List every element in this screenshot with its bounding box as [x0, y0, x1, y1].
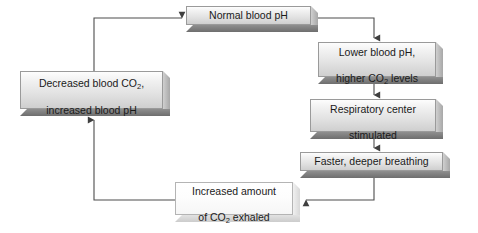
- node-bevel-right: [436, 99, 443, 132]
- node-label-decreased-blood-co2: Decreased blood CO2, increased blood pH: [20, 71, 163, 109]
- node-normal-blood-ph[interactable]: Normal blood pH: [186, 6, 318, 32]
- connector-breathing-to-exhaled: [306, 178, 374, 200]
- node-label-lower-blood-ph: Lower blood pH, higher CO2 levels: [318, 42, 436, 77]
- line-1: Lower blood pH,: [339, 46, 415, 58]
- flowchart-canvas: Normal blood pH Lower blood pH, higher C…: [0, 0, 478, 233]
- node-bevel-right: [293, 182, 300, 215]
- connector-exhaled-to-decreased: [94, 120, 175, 200]
- line-1-pre: Decreased blood CO: [39, 77, 137, 89]
- node-label-normal-blood-ph: Normal blood pH: [186, 6, 311, 25]
- line-1: Respiratory center: [330, 103, 416, 115]
- node-bevel-bottom: [186, 25, 318, 32]
- node-faster-deeper-breathing[interactable]: Faster, deeper breathing: [300, 152, 450, 178]
- subscript-2: 2: [384, 77, 388, 86]
- node-bevel-bottom: [300, 171, 450, 178]
- node-bevel-right: [311, 6, 318, 25]
- node-decreased-blood-co2[interactable]: Decreased blood CO2, increased blood pH: [20, 71, 170, 116]
- line-2-pre: higher CO: [336, 72, 384, 84]
- line-2-post: exhaled: [230, 211, 270, 223]
- line-1-post: ,: [141, 77, 144, 89]
- subscript-2: 2: [226, 216, 230, 225]
- line-2: increased blood pH: [46, 104, 136, 116]
- node-lower-blood-ph[interactable]: Lower blood pH, higher CO2 levels: [318, 42, 443, 84]
- node-bevel-right: [163, 71, 170, 109]
- line-2-pre: of CO: [198, 211, 225, 223]
- node-increased-co2-exhaled[interactable]: Increased amount of CO2 exhaled: [175, 182, 300, 222]
- subscript-2: 2: [137, 82, 141, 91]
- node-label-faster-deeper-breathing: Faster, deeper breathing: [300, 152, 443, 171]
- node-label-respiratory-center: Respiratory center stimulated: [310, 99, 436, 132]
- line-2: stimulated: [349, 129, 397, 141]
- line-2-post: levels: [388, 72, 418, 84]
- node-bevel-right: [443, 152, 450, 171]
- line-1: Increased amount: [192, 185, 276, 197]
- node-respiratory-center[interactable]: Respiratory center stimulated: [310, 99, 443, 139]
- node-label-increased-co2-exhaled: Increased amount of CO2 exhaled: [175, 182, 293, 215]
- node-bevel-right: [436, 42, 443, 77]
